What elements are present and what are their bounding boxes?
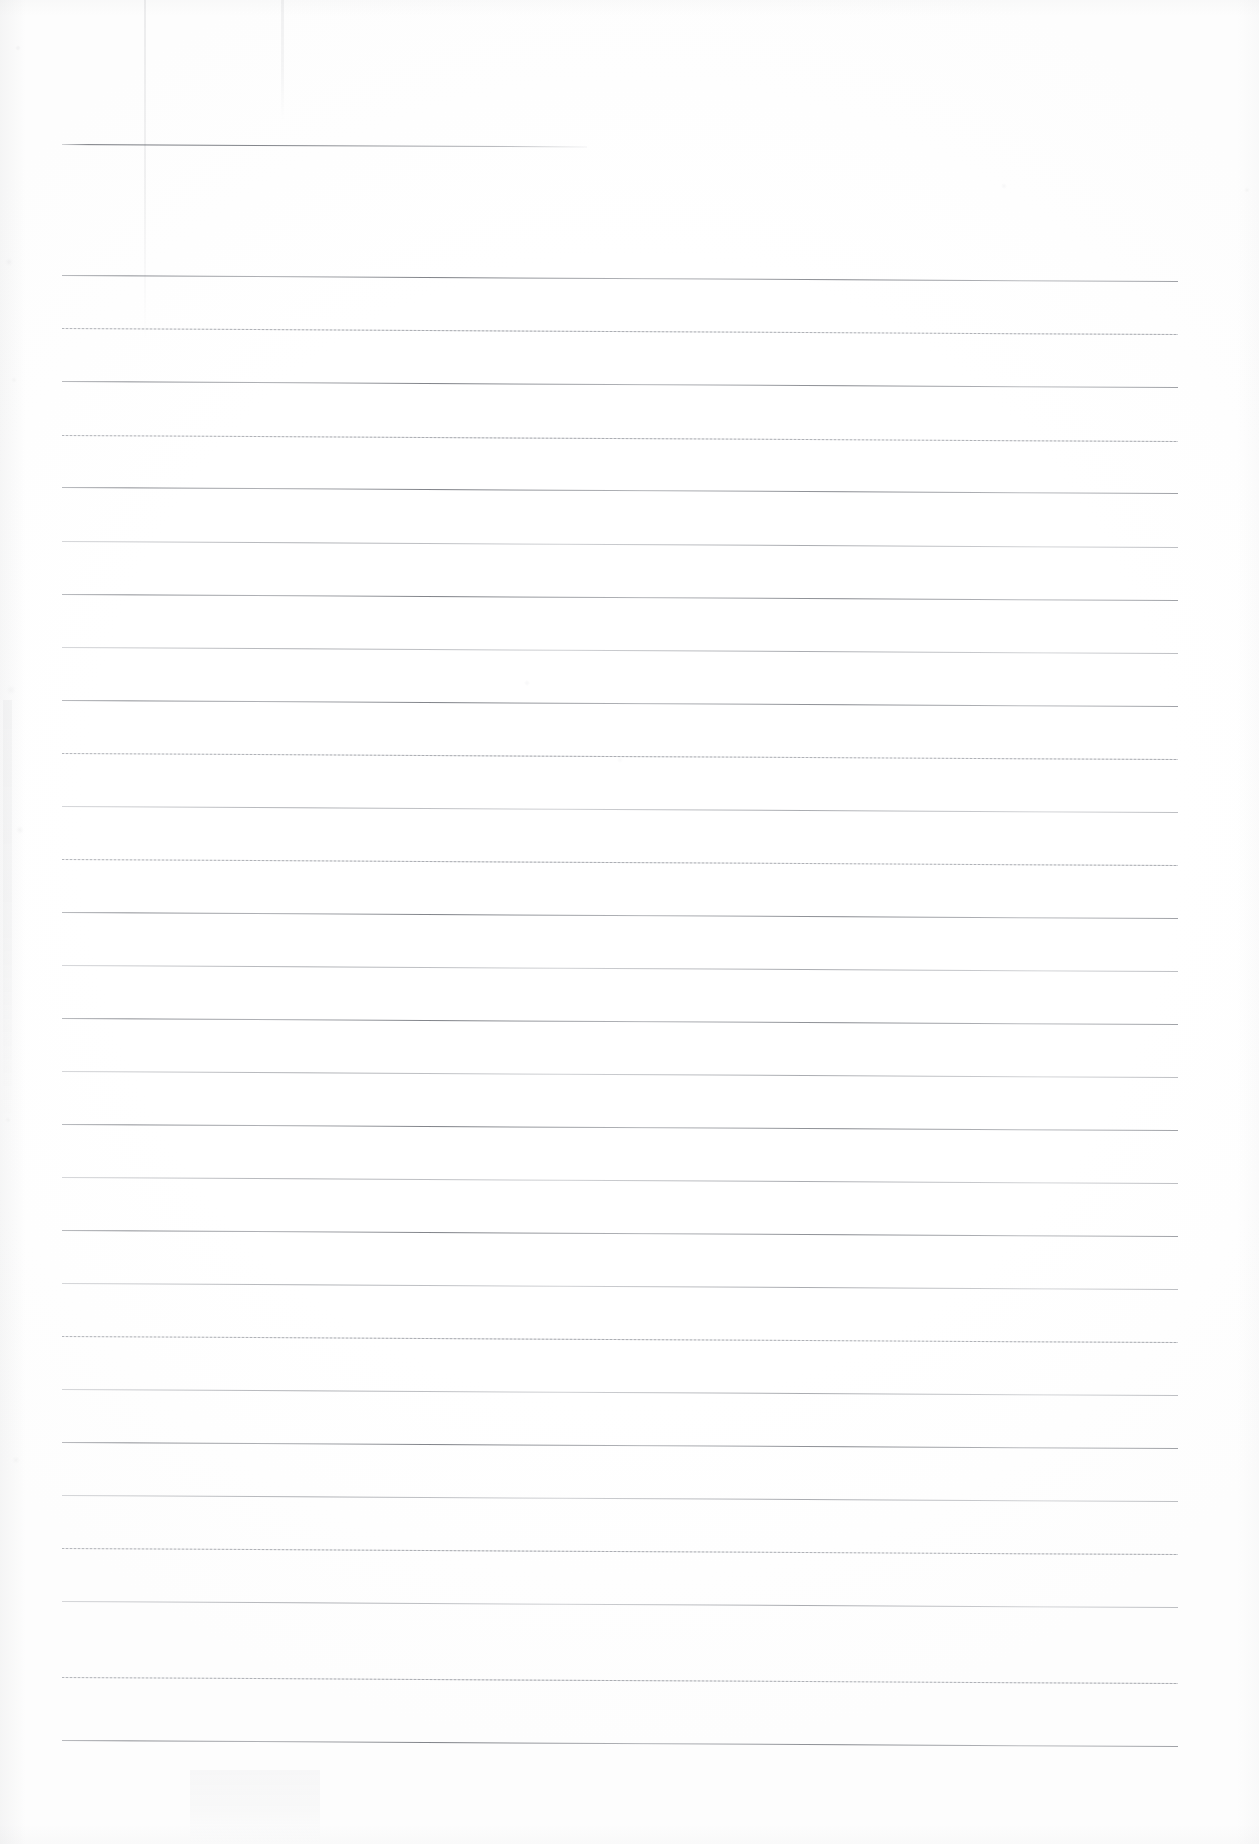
paper-surface bbox=[0, 0, 1259, 1844]
scanned-page: Blank Ruled Notebook Page bbox=[0, 0, 1259, 1844]
